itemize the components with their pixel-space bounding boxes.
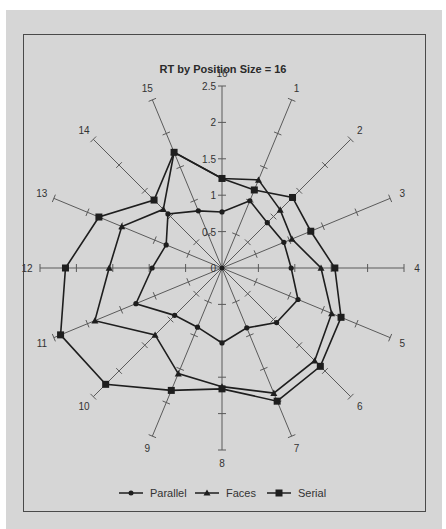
square-marker: [168, 387, 175, 394]
category-label: 15: [142, 83, 154, 94]
circle-marker: [219, 340, 224, 345]
radial-tick-label: 1.5: [202, 154, 216, 165]
category-label: 9: [145, 443, 151, 454]
square-marker-icon: [267, 488, 291, 498]
radar-plot: 1234567891011121314151600.511.522.5: [0, 0, 446, 529]
category-label: 16: [216, 68, 228, 79]
legend: Parallel Faces Serial: [0, 485, 446, 501]
triangle-marker-icon: [195, 488, 219, 498]
circle-marker: [196, 208, 201, 213]
radial-tick-label: 1: [210, 190, 216, 201]
axis-line: [152, 268, 222, 436]
square-marker: [151, 197, 158, 204]
circle-marker: [165, 211, 170, 216]
square-marker: [289, 194, 296, 201]
category-label: 7: [294, 443, 300, 454]
circle-marker-icon: [119, 488, 143, 498]
circle-marker: [172, 313, 177, 318]
square-marker: [95, 214, 102, 221]
legend-label: Faces: [226, 487, 256, 499]
square-marker: [57, 331, 64, 338]
triangle-marker: [91, 317, 98, 323]
legend-item-serial: Serial: [267, 485, 326, 501]
category-label: 8: [219, 458, 225, 469]
circle-marker: [150, 265, 155, 270]
circle-marker: [133, 301, 138, 306]
category-label: 2: [357, 125, 363, 136]
circle-marker: [195, 325, 200, 330]
square-marker: [219, 175, 226, 182]
circle-marker: [274, 320, 279, 325]
category-label: 6: [357, 401, 363, 412]
category-label: 11: [37, 338, 48, 349]
legend-label: Serial: [298, 487, 326, 499]
square-marker: [274, 398, 281, 405]
radial-tick-label: 0.5: [202, 227, 216, 238]
axis-line: [222, 100, 292, 268]
radial-tick-label: 0: [210, 263, 216, 274]
circle-marker: [289, 265, 294, 270]
axis-line: [93, 268, 222, 397]
category-label: 10: [79, 401, 91, 412]
square-marker: [171, 149, 178, 156]
legend-item-faces: Faces: [195, 485, 256, 501]
triangle-marker: [328, 310, 335, 316]
legend-item-parallel: Parallel: [119, 485, 187, 501]
square-marker: [219, 385, 226, 392]
category-label: 14: [79, 125, 91, 136]
circle-marker: [295, 297, 300, 302]
circle-marker: [219, 209, 224, 214]
legend-label: Parallel: [150, 487, 187, 499]
square-marker: [331, 265, 338, 272]
axis-line: [222, 268, 351, 397]
square-marker: [307, 228, 314, 235]
category-label: 12: [21, 263, 33, 274]
circle-marker: [244, 325, 249, 330]
square-marker: [62, 265, 69, 272]
category-label: 4: [414, 263, 420, 274]
square-marker: [317, 363, 324, 370]
square-marker: [102, 381, 109, 388]
square-marker: [251, 186, 258, 193]
circle-marker: [247, 198, 252, 203]
circle-marker: [281, 240, 286, 245]
square-marker: [338, 314, 345, 321]
series-line-parallel: [136, 201, 298, 343]
radial-tick-label: 2.5: [202, 81, 216, 92]
circle-marker: [164, 242, 169, 247]
category-label: 5: [399, 338, 405, 349]
axis-line: [222, 268, 292, 436]
center-point: [220, 266, 225, 271]
category-label: 3: [399, 188, 405, 199]
axis-line: [222, 198, 390, 268]
category-label: 13: [36, 188, 48, 199]
circle-marker: [265, 220, 270, 225]
triangle-marker: [288, 236, 295, 242]
radial-tick-label: 2: [210, 117, 216, 128]
category-label: 1: [294, 83, 300, 94]
